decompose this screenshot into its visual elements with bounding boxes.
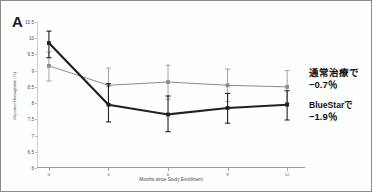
y-tick-label: 6.5 bbox=[28, 149, 34, 154]
y-tick-label: 10.5 bbox=[25, 20, 34, 25]
annotation-usual-care: 通常治療で −0.7％ bbox=[309, 67, 359, 91]
panel-label: A bbox=[12, 13, 22, 30]
annotation-bluestar-title: BlueStarで bbox=[309, 100, 353, 111]
annotation-bluestar-value: −1.9％ bbox=[309, 111, 353, 123]
annotation-bluestar: BlueStarで −1.9％ bbox=[309, 100, 353, 123]
annotation-usual-care-title: 通常治療で bbox=[309, 67, 359, 79]
x-axis-title: Months since Study Enrollment bbox=[139, 177, 202, 182]
y-tick-label: 7.5 bbox=[28, 117, 34, 122]
plot-area: 66.577.588.599.51010.5 036912 bbox=[37, 22, 305, 168]
y-tick-label: 9.5 bbox=[28, 52, 34, 57]
x-tick-label: 3 bbox=[107, 172, 109, 177]
y-axis-title: Glycated Hemoglobin (%) bbox=[12, 72, 17, 120]
x-tick-mark bbox=[108, 168, 109, 171]
x-tick-mark bbox=[287, 168, 288, 171]
x-tick-mark bbox=[49, 168, 50, 171]
x-tick-label: 0 bbox=[48, 172, 50, 177]
annotation-usual-care-value: −0.7％ bbox=[309, 79, 359, 91]
x-tick-label: 12 bbox=[285, 172, 290, 177]
y-tick-mark bbox=[35, 168, 38, 169]
x-tick-mark bbox=[228, 168, 229, 171]
y-tick-label: 8.5 bbox=[28, 84, 34, 89]
series-lines bbox=[37, 22, 305, 168]
chart-figure: A Glycated Hemoglobin (%) 66.577.588.599… bbox=[0, 0, 372, 192]
x-tick-label: 9 bbox=[226, 172, 228, 177]
y-tick-label: 10 bbox=[29, 36, 34, 41]
x-tick-mark bbox=[168, 168, 169, 171]
